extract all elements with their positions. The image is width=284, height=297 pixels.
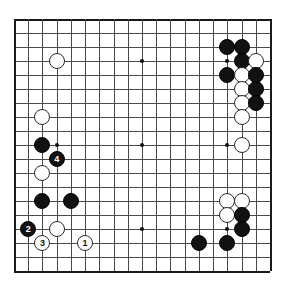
- grid-line-vertical: [199, 19, 200, 271]
- white-stone[interactable]: [49, 53, 65, 69]
- star-point: [140, 143, 144, 147]
- grid-line-vertical: [156, 19, 157, 271]
- star-point: [140, 59, 144, 63]
- star-point: [225, 143, 229, 147]
- move-number-label: 1: [78, 236, 92, 250]
- white-stone[interactable]: [234, 109, 250, 125]
- black-stone[interactable]: [219, 235, 235, 251]
- go-board-diagram: 4231: [0, 0, 284, 297]
- black-stone[interactable]: [191, 235, 207, 251]
- grid-line-vertical: [14, 19, 16, 271]
- black-stone[interactable]: [234, 221, 250, 237]
- grid-line-vertical: [114, 19, 115, 271]
- black-stone[interactable]: [219, 39, 235, 55]
- move-stone-4[interactable]: 4: [49, 151, 65, 167]
- grid-line-vertical: [185, 19, 186, 271]
- grid-line-vertical: [270, 19, 272, 271]
- grid-line-vertical: [85, 19, 86, 271]
- white-stone[interactable]: [49, 221, 65, 237]
- white-stone[interactable]: [34, 109, 50, 125]
- grid-line-vertical: [99, 19, 100, 271]
- move-stone-2[interactable]: 2: [20, 221, 36, 237]
- move-number-label: 4: [50, 152, 64, 166]
- star-point: [55, 143, 59, 147]
- move-number-label: 3: [35, 236, 49, 250]
- move-stone-1[interactable]: 1: [77, 235, 93, 251]
- grid-line-vertical: [128, 19, 129, 271]
- black-stone[interactable]: [34, 137, 50, 153]
- white-stone[interactable]: [34, 165, 50, 181]
- grid-line-vertical: [71, 19, 72, 271]
- move-stone-3[interactable]: 3: [34, 235, 50, 251]
- black-stone[interactable]: [248, 95, 264, 111]
- goban-grid[interactable]: 4231: [14, 19, 270, 271]
- move-number-label: 2: [21, 222, 35, 236]
- star-point: [225, 227, 229, 231]
- grid-line-vertical: [213, 19, 214, 271]
- star-point: [140, 227, 144, 231]
- grid-line-vertical: [170, 19, 171, 271]
- white-stone[interactable]: [234, 137, 250, 153]
- grid-line-horizontal: [14, 271, 270, 273]
- black-stone[interactable]: [34, 193, 50, 209]
- star-point: [225, 59, 229, 63]
- black-stone[interactable]: [63, 193, 79, 209]
